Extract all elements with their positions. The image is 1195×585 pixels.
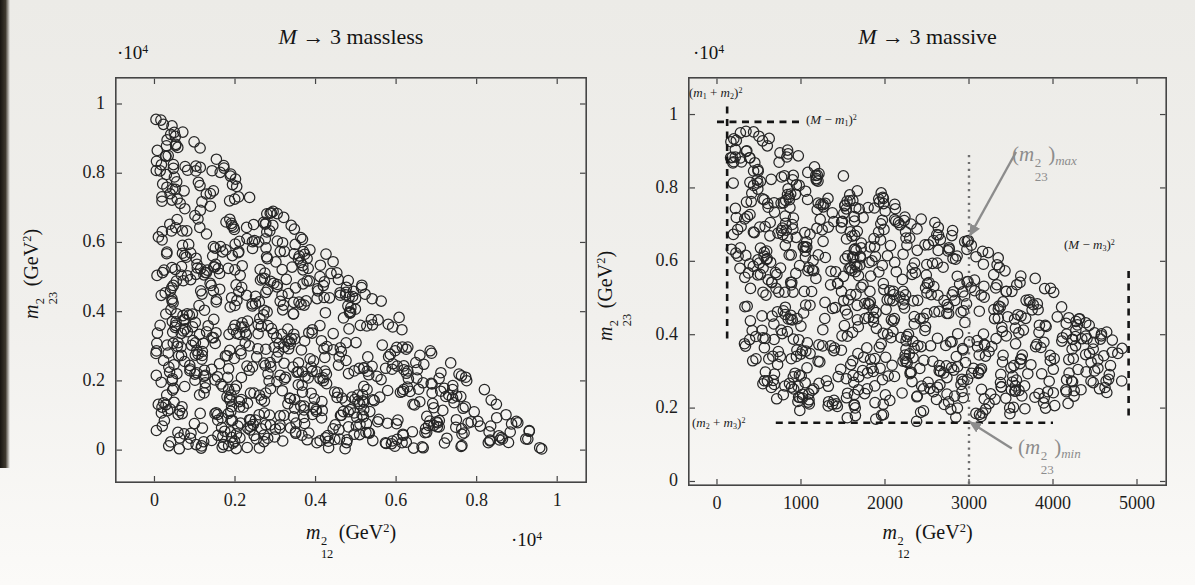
data-point-circle — [156, 377, 166, 387]
data-point-circle — [885, 240, 895, 250]
massive-plot-canvas — [688, 77, 1167, 486]
data-point-circle — [838, 171, 848, 181]
data-point-circle — [180, 161, 190, 171]
data-point-circle — [397, 325, 407, 335]
label-m2-plus-m3-squared: (m2 + m3)2 — [692, 416, 745, 430]
data-point-circle — [377, 340, 387, 350]
data-point-circle — [897, 274, 907, 284]
data-point-circle — [283, 288, 293, 298]
data-point-circle — [189, 137, 199, 147]
x-tick-label: 3000 — [935, 493, 1003, 514]
data-point-circle — [974, 306, 984, 316]
data-point-circle — [479, 384, 489, 394]
data-point-circle — [1003, 312, 1013, 322]
data-point-circle — [333, 274, 343, 284]
x-tick-label: 0 — [120, 490, 188, 511]
data-point-circle — [991, 333, 1001, 343]
data-point-circle — [761, 290, 771, 300]
data-point-circle — [304, 428, 314, 438]
data-point-circle — [1020, 404, 1030, 414]
y-tick-label: 0.2 — [49, 370, 105, 391]
data-point-circle — [256, 424, 266, 434]
data-point-circle — [806, 286, 816, 296]
data-point-circle — [394, 312, 404, 322]
x-tick-label: 1000 — [767, 493, 835, 514]
data-point-circle — [446, 358, 456, 368]
data-point-circle — [912, 391, 922, 401]
y-tick-label: 0.4 — [622, 324, 678, 345]
data-point-circle — [989, 269, 999, 279]
x-tick-label: 2000 — [851, 493, 919, 514]
data-point-circle — [1063, 398, 1073, 408]
data-point-circle — [1030, 273, 1040, 283]
data-point-circle — [745, 283, 755, 293]
data-point-circle — [933, 245, 943, 255]
data-point-circle — [296, 345, 306, 355]
data-point-circle — [780, 302, 790, 312]
data-point-circle — [952, 403, 962, 413]
data-point-circle — [197, 423, 207, 433]
data-point-circle — [343, 275, 353, 285]
data-point-circle — [209, 314, 219, 324]
data-point-circle — [881, 304, 891, 314]
y-tick-label: 0.8 — [49, 162, 105, 183]
data-point-circle — [315, 260, 325, 270]
data-point-circle — [978, 329, 988, 339]
data-point-circle — [376, 296, 386, 306]
data-point-circle — [874, 267, 884, 277]
data-point-circle — [279, 358, 289, 368]
data-point-circle — [177, 240, 187, 250]
data-point-circle — [152, 338, 162, 348]
data-point-circle — [852, 300, 862, 310]
data-point-circle — [195, 408, 205, 418]
y-tick-label: 0 — [49, 439, 105, 460]
data-point-circle — [393, 415, 403, 425]
data-point-circle — [304, 276, 314, 286]
data-point-circle — [244, 192, 254, 202]
data-point-circle — [248, 219, 258, 229]
label-m23sq-min: (m223)min — [1018, 436, 1081, 477]
data-point-circle — [434, 373, 444, 383]
data-point-circle — [879, 284, 889, 294]
plot-frame — [689, 78, 1166, 485]
data-point-circle — [742, 211, 752, 221]
data-point-circle — [881, 352, 891, 362]
data-point-circle — [953, 329, 963, 339]
data-point-circle — [915, 407, 925, 417]
data-point-circle — [757, 311, 767, 321]
scanned-textbook-figure: M → 3 massless ·104 ·104 m212 (GeV2) m22… — [0, 0, 1195, 585]
data-point-circle — [1001, 393, 1011, 403]
data-point-circle — [1084, 320, 1094, 330]
data-point-circle — [321, 379, 331, 389]
data-point-circle — [793, 151, 803, 161]
data-point-circle — [469, 407, 479, 417]
data-point-circle — [1010, 339, 1020, 349]
data-point-circle — [170, 264, 180, 274]
y-tick-label: 1 — [49, 93, 105, 114]
data-point-circle — [203, 321, 213, 331]
data-point-circle — [287, 262, 297, 272]
y-axis-scale-factor: ·104 — [693, 42, 724, 64]
data-point-circle — [407, 427, 417, 437]
data-point-circle — [163, 348, 173, 358]
label-m1-plus-m2-squared: (m1 + m2)2 — [689, 86, 742, 100]
label-M-minus-m1-squared: (M − m1)2 — [806, 113, 857, 127]
data-point-circle — [242, 442, 252, 452]
data-point-circle — [882, 251, 892, 261]
data-point-circle — [1044, 376, 1054, 386]
m23sq-min-arrow — [970, 422, 1012, 448]
data-point-circle — [866, 271, 876, 281]
data-point-circle — [190, 375, 200, 385]
y-tick-label: 0.6 — [49, 231, 105, 252]
data-point-circle — [814, 340, 824, 350]
data-point-circle — [320, 308, 330, 318]
data-point-circle — [951, 351, 961, 361]
data-point-circle — [820, 313, 830, 323]
book-edge-shadow — [0, 0, 10, 468]
label-m23sq-max: (m223)max — [1012, 143, 1077, 184]
data-point-circle — [780, 287, 790, 297]
x-tick-label: 0.8 — [443, 490, 511, 511]
data-point-circle — [862, 343, 872, 353]
data-point-circle — [277, 264, 287, 274]
y-tick-label: 1 — [622, 104, 678, 125]
